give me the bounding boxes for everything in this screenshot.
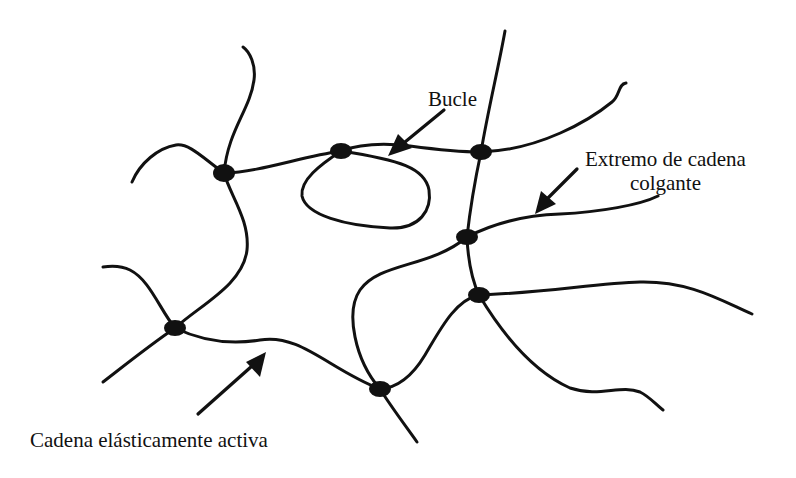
crosslink-node-A <box>213 164 235 182</box>
chain-F-G-elastic <box>175 328 380 389</box>
crosslink-node-F <box>164 320 186 336</box>
chain-D-G <box>353 237 467 389</box>
chain-G-lower-dangling <box>380 389 417 442</box>
crosslink-node-C <box>470 144 492 160</box>
crosslink-node-D <box>456 229 478 245</box>
arrow-dangling-shaft <box>548 169 577 198</box>
loop-B <box>302 151 430 228</box>
chain-F-upper-left-dangling <box>103 266 175 328</box>
chain-F-lower-left-dangling <box>103 328 175 382</box>
label-loop: Bucle <box>428 87 477 111</box>
chain-E-right-dangling <box>479 282 752 314</box>
label-dangling-end-line1: Extremo de cadena <box>585 147 746 171</box>
label-dangling-end: Extremo de cadena colgante <box>585 147 746 195</box>
arrow-elastic-head <box>246 352 266 377</box>
chain-A-left-dangling <box>132 145 224 182</box>
annotation-arrows <box>198 110 577 414</box>
crosslink-node-B <box>330 143 352 159</box>
chain-A-top-dangling <box>224 47 254 173</box>
chain-E-lower-dangling <box>479 295 663 410</box>
arrow-elastic-shaft <box>198 366 252 414</box>
chain-D-dangling-end <box>467 196 658 237</box>
chain-E-G <box>380 295 479 389</box>
label-elastic-chain: Cadena elásticamente activa <box>30 428 268 452</box>
crosslink-node-E <box>468 287 490 303</box>
label-dangling-end-line2: colgante <box>585 171 746 195</box>
polymer-network-diagram <box>0 0 796 478</box>
chain-A-F <box>175 173 247 328</box>
chain-D-E <box>467 237 479 295</box>
chain-C-top-dangling <box>481 31 505 152</box>
crosslinks <box>164 143 492 397</box>
crosslink-node-G <box>369 381 391 397</box>
arrow-loop-shaft <box>405 110 444 142</box>
chain-C-D <box>467 152 481 237</box>
chain-C-right-dangling <box>481 83 626 152</box>
